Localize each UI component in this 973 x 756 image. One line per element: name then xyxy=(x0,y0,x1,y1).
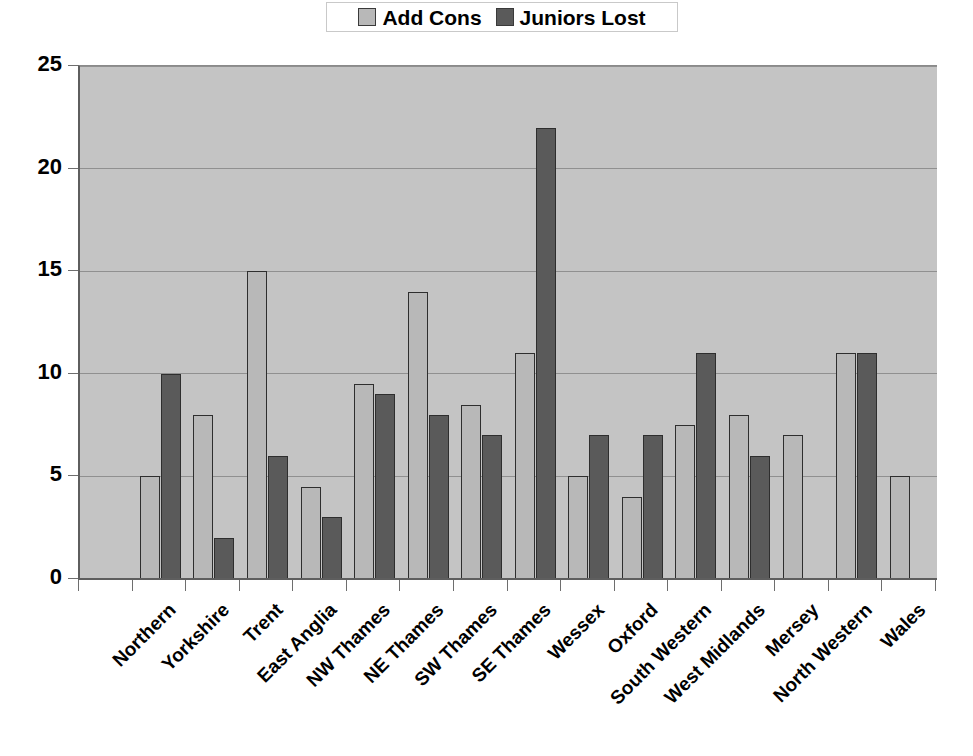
x-axis-tick xyxy=(399,580,400,591)
x-axis-tick xyxy=(507,580,508,591)
bar xyxy=(643,435,663,579)
bar xyxy=(193,415,213,579)
bar-group xyxy=(193,66,234,579)
y-axis-tick-25 xyxy=(68,65,78,66)
bar xyxy=(268,456,288,579)
bar xyxy=(354,384,374,579)
bar xyxy=(301,487,321,579)
y-axis-labels: 0510152025 xyxy=(0,0,62,756)
bar-group xyxy=(354,66,395,579)
bar xyxy=(214,538,234,579)
bar xyxy=(140,476,160,579)
x-axis-tick xyxy=(453,580,454,591)
bar xyxy=(890,476,910,579)
y-axis-tick-5 xyxy=(68,475,78,476)
bar-group xyxy=(515,66,556,579)
bar xyxy=(568,476,588,579)
bar xyxy=(750,456,770,579)
x-axis-tick xyxy=(828,580,829,591)
x-axis-tick xyxy=(132,580,133,591)
x-axis-tick xyxy=(614,580,615,591)
x-axis-tick xyxy=(346,580,347,591)
bar xyxy=(589,435,609,579)
plot-area xyxy=(78,65,937,579)
bar xyxy=(161,374,181,579)
y-axis-tick-10 xyxy=(68,373,78,374)
x-axis-line xyxy=(78,578,937,580)
x-axis-tick xyxy=(774,580,775,591)
bar xyxy=(857,353,877,579)
bar-group xyxy=(568,66,609,579)
y-axis-label-10: 10 xyxy=(2,361,62,383)
bar xyxy=(247,271,267,579)
x-axis-tick xyxy=(78,580,79,591)
bar-group xyxy=(783,66,824,579)
bar xyxy=(696,353,716,579)
bar-group xyxy=(890,66,931,579)
bar-group xyxy=(461,66,502,579)
y-axis-label-0: 0 xyxy=(2,566,62,588)
bar-chart: 0510152025 xyxy=(0,0,973,756)
y-axis-label-20: 20 xyxy=(2,156,62,178)
x-axis-tick xyxy=(185,580,186,591)
bar-group xyxy=(729,66,770,579)
x-axis-tick xyxy=(667,580,668,591)
x-axis-tick xyxy=(721,580,722,591)
bar xyxy=(622,497,642,579)
y-axis-label-5: 5 xyxy=(2,463,62,485)
bar xyxy=(408,292,428,579)
y-axis-label-15: 15 xyxy=(2,258,62,280)
bar xyxy=(675,425,695,579)
bar xyxy=(375,394,395,579)
bar xyxy=(429,415,449,579)
bar-group xyxy=(675,66,716,579)
y-axis-tick-20 xyxy=(68,168,78,169)
x-axis-tick xyxy=(560,580,561,591)
x-axis-tick xyxy=(292,580,293,591)
y-axis-tick-15 xyxy=(68,270,78,271)
x-axis-tick xyxy=(935,580,936,591)
bar xyxy=(322,517,342,579)
bar-group xyxy=(247,66,288,579)
bar xyxy=(461,405,481,579)
bar xyxy=(482,435,502,579)
bar-group xyxy=(140,66,181,579)
x-axis-tick xyxy=(239,580,240,591)
y-axis-tick-0 xyxy=(68,578,78,579)
bar-group xyxy=(301,66,342,579)
bar xyxy=(836,353,856,579)
y-axis-label-25: 25 xyxy=(2,53,62,75)
bar xyxy=(515,353,535,579)
bar-group xyxy=(408,66,449,579)
x-axis-tick xyxy=(881,580,882,591)
bar xyxy=(783,435,803,579)
bar-group xyxy=(836,66,877,579)
bar-group xyxy=(622,66,663,579)
bar xyxy=(536,128,556,579)
bar xyxy=(729,415,749,579)
